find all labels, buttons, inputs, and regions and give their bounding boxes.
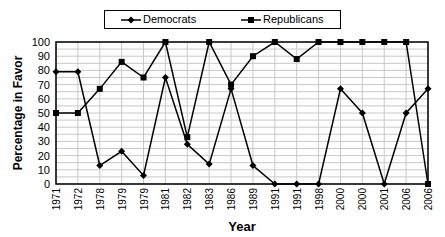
y-tick-label: 50 <box>38 107 50 119</box>
square-marker-icon <box>97 86 103 92</box>
x-tick-label: 1979 <box>139 188 150 211</box>
x-tick-label: 2001 <box>379 188 390 211</box>
square-marker-icon <box>241 14 261 26</box>
square-marker-icon <box>141 75 147 81</box>
diamond-marker-icon <box>121 14 141 26</box>
y-tick-label: 40 <box>38 121 50 133</box>
square-marker-icon <box>294 56 300 62</box>
y-axis-label: Percentage in Favor <box>11 55 25 170</box>
x-tick-label: 2006 <box>401 188 412 211</box>
x-tick-label: 1979 <box>117 188 128 211</box>
diamond-marker-icon <box>74 68 81 75</box>
y-tick-label: 60 <box>38 93 50 105</box>
x-axis-label: Year <box>228 219 255 234</box>
y-tick-label: 100 <box>32 36 50 48</box>
legend: Democrats Republicans <box>104 10 341 29</box>
y-tick-label: 10 <box>38 164 50 176</box>
x-tick-label: 1991 <box>270 188 281 211</box>
x-tick-label: 1971 <box>51 188 62 211</box>
legend-item-democrats: Democrats <box>121 13 196 26</box>
x-tick-label: 2000 <box>335 188 346 211</box>
legend-item-republicans: Republicans <box>241 13 324 26</box>
x-tick-label: 1991 <box>292 188 303 211</box>
square-marker-icon <box>119 59 125 65</box>
y-tick-label: 70 <box>38 79 50 91</box>
x-tick-label: 1982 <box>182 188 193 211</box>
y-tick-label: 0 <box>44 178 50 190</box>
legend-label-democrats: Democrats <box>143 13 196 26</box>
gridlines <box>56 42 428 184</box>
x-tick-label: 1981 <box>160 188 171 211</box>
x-tick-label: 1989 <box>248 188 259 211</box>
square-marker-icon <box>250 53 256 59</box>
line-chart: 0102030405060708090100 19711972197819791… <box>0 0 445 237</box>
x-tick-label: 1978 <box>95 188 106 211</box>
y-axis-ticks: 0102030405060708090100 <box>32 36 50 190</box>
square-marker-icon <box>184 134 190 140</box>
x-axis-ticks: 1971197219781979197919811982198319861989… <box>51 188 434 211</box>
square-marker-icon <box>75 110 81 116</box>
y-tick-label: 80 <box>38 64 50 76</box>
x-tick-label: 2000 <box>357 188 368 211</box>
legend-label-republicans: Republicans <box>263 13 324 26</box>
x-tick-label: 2006 <box>423 188 434 211</box>
y-tick-label: 20 <box>38 150 50 162</box>
x-tick-label: 1983 <box>204 188 215 211</box>
x-tick-label: 1986 <box>226 188 237 211</box>
square-marker-icon <box>228 82 234 88</box>
x-tick-label: 1998 <box>314 188 325 211</box>
x-tick-label: 1972 <box>73 188 84 211</box>
diamond-marker-icon <box>162 74 169 81</box>
y-tick-label: 30 <box>38 135 50 147</box>
y-tick-label: 90 <box>38 50 50 62</box>
